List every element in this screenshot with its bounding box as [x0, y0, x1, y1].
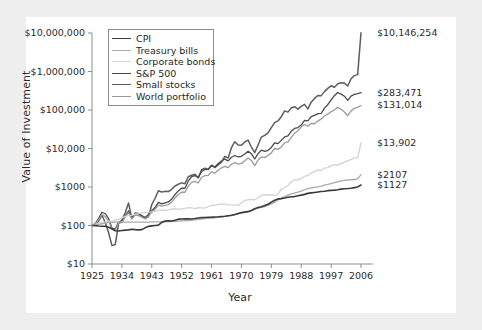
legend-item-s-p-500: S&P 500: [112, 68, 209, 80]
x-axis-title: Year: [170, 291, 310, 304]
series-end-label: $10,146,254: [377, 27, 437, 38]
legend-item-label: Corporate bonds: [136, 56, 215, 68]
series-end-label: $2107: [377, 169, 407, 180]
y-axis-title: Value of Investment: [20, 67, 33, 187]
legend-item-label: Small stocks: [136, 79, 196, 91]
legend-swatch-icon: [112, 38, 131, 39]
legend-swatch-icon: [112, 73, 131, 74]
legend-item-small-stocks: Small stocks: [112, 79, 209, 91]
y-axis-tick-label: $100: [0, 220, 85, 231]
series-line-corporate-bonds: [92, 143, 361, 226]
y-axis-tick-label: $1,000,000: [0, 66, 85, 77]
series-line-cpi: [92, 185, 361, 231]
y-axis-tick-label: $10,000,000: [0, 27, 85, 38]
series-end-label: $131,014: [377, 99, 422, 110]
y-axis-tick-label: $1000: [0, 181, 85, 192]
legend-swatch-icon: [112, 50, 131, 51]
legend-swatch-icon: [112, 61, 131, 62]
series-line-s-p-500: [92, 92, 361, 229]
y-axis-tick-label: $10,000: [0, 143, 85, 154]
legend-item-label: World portfolio: [136, 91, 206, 103]
series-end-label: $13,902: [377, 137, 416, 148]
legend-item-label: S&P 500: [136, 68, 176, 80]
legend-item-label: Treasury bills: [136, 45, 198, 57]
x-axis-tick-label: 2006: [341, 270, 381, 281]
series-line-world-portfolio: [92, 105, 361, 230]
legend-swatch-icon: [112, 96, 131, 97]
y-axis-tick-label: $10: [0, 258, 85, 269]
legend-item-corporate-bonds: Corporate bonds: [112, 56, 209, 68]
legend-item-world-portfolio: World portfolio: [112, 91, 209, 103]
legend-item-label: CPI: [136, 33, 151, 45]
series-end-label: $283,471: [377, 87, 422, 98]
chart-legend: CPITreasury billsCorporate bondsS&P 500S…: [108, 29, 214, 106]
y-axis-tick-label: $100,000: [0, 104, 85, 115]
series-end-label: $1127: [377, 179, 407, 190]
legend-item-treasury-bills: Treasury bills: [112, 45, 209, 57]
legend-swatch-icon: [112, 84, 131, 85]
legend-item-cpi: CPI: [112, 33, 209, 45]
